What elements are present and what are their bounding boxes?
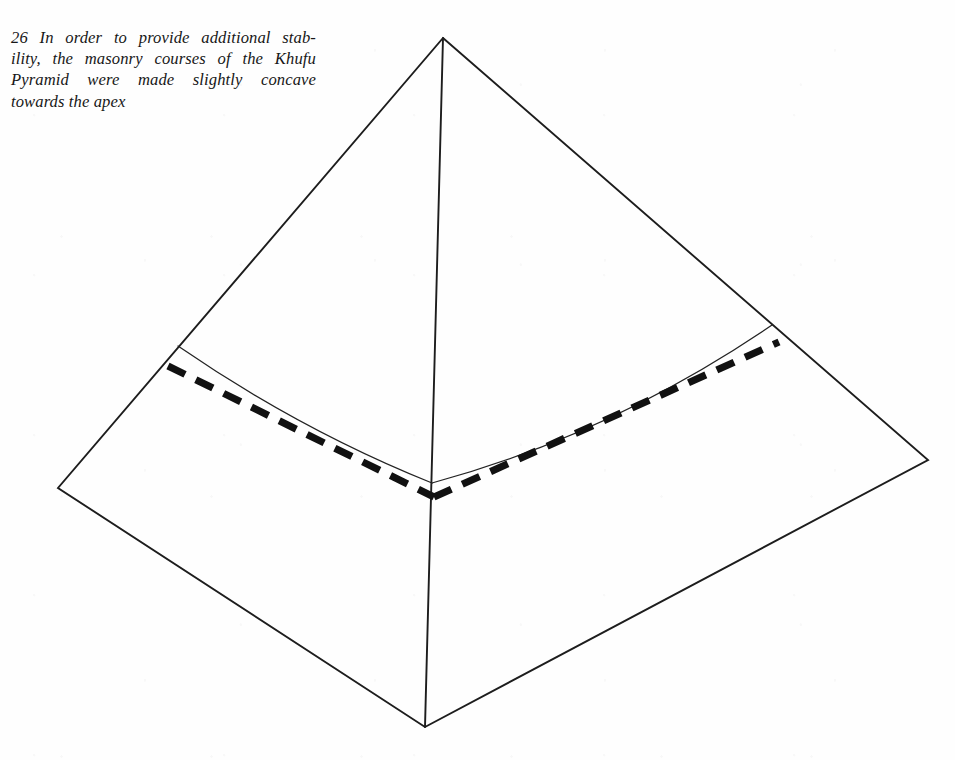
concave-course-curve-right xyxy=(432,325,772,483)
pyramid-outline xyxy=(58,38,928,727)
concave-course-curve-left xyxy=(178,346,432,483)
figure-root: 26 In order to provide additional stab- … xyxy=(0,0,955,760)
pyramid-diagram xyxy=(0,0,955,760)
straight-datum-line-right xyxy=(434,342,779,497)
straight-datum-line-left xyxy=(168,366,434,497)
central-vertical-edge xyxy=(425,38,443,727)
